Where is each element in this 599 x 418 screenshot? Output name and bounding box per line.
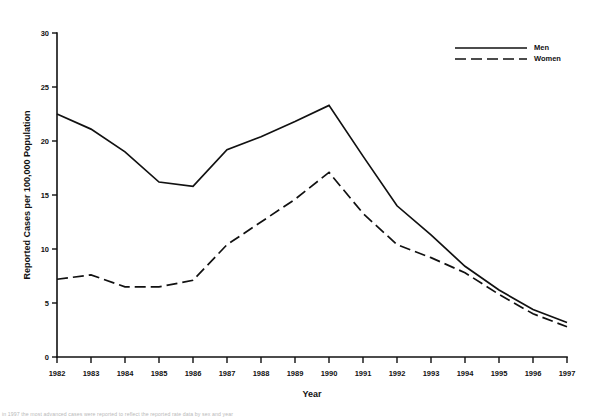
x-tick-label-1987: 1987 bbox=[219, 369, 236, 378]
x-tick-label-1997: 1997 bbox=[559, 369, 576, 378]
x-tick-label-1983: 1983 bbox=[83, 369, 100, 378]
figure-footnote: in 1997 the most advanced cases were rep… bbox=[2, 411, 233, 418]
x-tick-label-1992: 1992 bbox=[389, 369, 406, 378]
x-tick-label-1994: 1994 bbox=[457, 369, 475, 378]
x-tick-label-1991: 1991 bbox=[355, 369, 372, 378]
x-axis-title: Year bbox=[302, 389, 322, 399]
x-tick-label-1995: 1995 bbox=[491, 369, 508, 378]
x-tick-label-1982: 1982 bbox=[49, 369, 66, 378]
y-axis: 051015202530 Reported Cases per 100,000 … bbox=[22, 29, 57, 362]
chart-legend: MenWomen bbox=[455, 43, 561, 63]
y-tick-label-10: 10 bbox=[41, 245, 49, 254]
x-tick-label-1986: 1986 bbox=[185, 369, 202, 378]
y-tick-label-30: 30 bbox=[41, 29, 49, 38]
data-series-group bbox=[57, 105, 567, 326]
x-tick-label-1990: 1990 bbox=[321, 369, 338, 378]
y-tick-label-5: 5 bbox=[45, 299, 49, 308]
x-tick-label-1988: 1988 bbox=[253, 369, 270, 378]
legend-label-women: Women bbox=[534, 54, 561, 63]
y-axis-ticks: 051015202530 bbox=[41, 29, 57, 362]
x-axis: 1982198319841985198619871988198919901991… bbox=[49, 357, 576, 399]
x-axis-ticks: 1982198319841985198619871988198919901991… bbox=[49, 357, 576, 378]
y-tick-label-0: 0 bbox=[45, 353, 49, 362]
series-line-women bbox=[57, 172, 567, 326]
legend-label-men: Men bbox=[534, 43, 549, 52]
x-tick-label-1996: 1996 bbox=[525, 369, 542, 378]
y-tick-label-25: 25 bbox=[41, 83, 49, 92]
y-axis-title: Reported Cases per 100,000 Population bbox=[22, 110, 32, 279]
y-tick-label-20: 20 bbox=[41, 137, 49, 146]
x-tick-label-1993: 1993 bbox=[423, 369, 440, 378]
y-tick-label-15: 15 bbox=[41, 191, 49, 200]
x-tick-label-1989: 1989 bbox=[287, 369, 304, 378]
x-tick-label-1984: 1984 bbox=[117, 369, 135, 378]
x-tick-label-1985: 1985 bbox=[151, 369, 168, 378]
